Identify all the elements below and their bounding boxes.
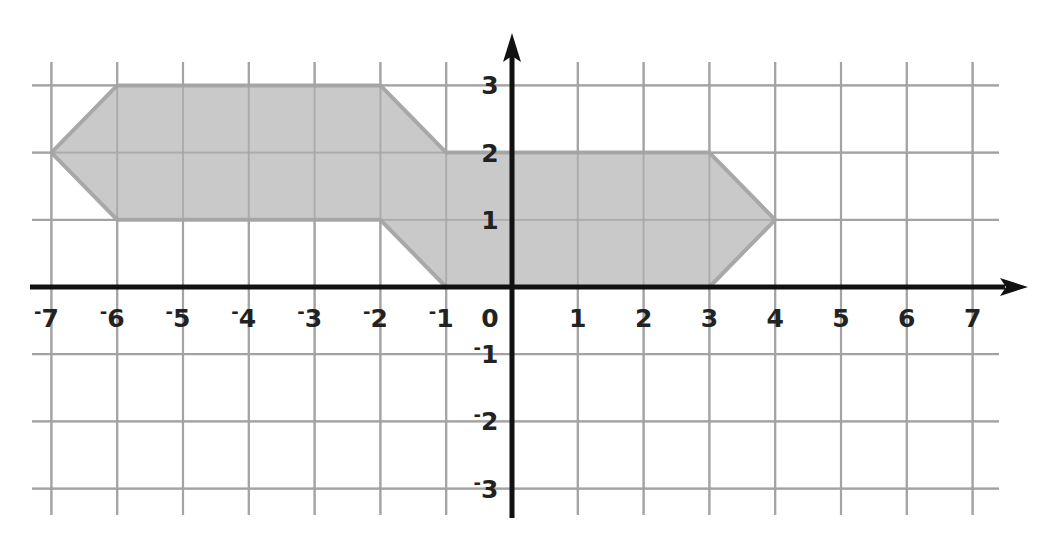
- x-tick-label: -4: [231, 301, 256, 333]
- y-tick-label: -2: [474, 404, 499, 436]
- x-tick-label: -3: [297, 301, 322, 333]
- shaded-polygon: [51, 85, 775, 287]
- x-tick-label: 5: [832, 304, 849, 333]
- y-tick-label: -1: [474, 337, 499, 369]
- y-tick-label: 2: [481, 139, 498, 168]
- x-tick-label: -7: [34, 301, 59, 333]
- x-tick-label: -2: [363, 301, 388, 333]
- x-tick-label: -1: [429, 301, 454, 333]
- x-tick-label: -5: [166, 301, 191, 333]
- coordinate-plane: -7-6-5-4-3-2-101234567 321-1-2-3: [0, 0, 1057, 544]
- x-tick-label: 0: [481, 304, 498, 333]
- x-tick-label: 7: [964, 304, 981, 333]
- y-tick-label: 3: [481, 71, 498, 100]
- x-tick-label: -6: [100, 301, 125, 333]
- y-tick-label: 1: [481, 206, 498, 235]
- x-tick-label: 6: [898, 304, 915, 333]
- x-tick-labels: -7-6-5-4-3-2-101234567: [34, 301, 981, 333]
- x-tick-label: 4: [766, 304, 783, 333]
- x-tick-label: 1: [569, 304, 586, 333]
- x-tick-label: 2: [635, 304, 652, 333]
- y-tick-label: -3: [474, 472, 499, 504]
- x-tick-label: 3: [701, 304, 718, 333]
